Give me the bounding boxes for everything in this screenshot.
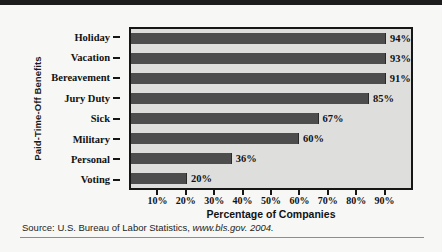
bar-value-label: 94% xyxy=(390,33,411,44)
bar xyxy=(131,73,386,84)
y-axis-title-text: Paid-Time-Off Benefits xyxy=(32,56,43,160)
bar xyxy=(131,93,369,104)
category-label-text: Personal xyxy=(71,154,110,165)
bar-row: 60% xyxy=(131,128,411,148)
bar-series: 94%93%91%85%67%60%36%20% xyxy=(131,29,411,188)
category-label: Personal xyxy=(48,149,123,169)
x-tick-label: 40% xyxy=(233,195,253,206)
category-label-text: Sick xyxy=(91,113,110,124)
bar-row: 67% xyxy=(131,109,411,129)
x-tick-label: 80% xyxy=(346,195,366,206)
bar-row: 91% xyxy=(131,69,411,89)
category-label-text: Jury Duty xyxy=(64,93,110,104)
x-tick-label: 50% xyxy=(261,195,281,206)
x-tick-label: 10% xyxy=(147,195,167,206)
bar-value-label: 60% xyxy=(303,133,324,144)
bar-value-label: 91% xyxy=(390,73,411,84)
category-label-text: Military xyxy=(73,134,110,145)
category-label: Holiday xyxy=(48,27,123,47)
source-note-citation: www.bls.gov. 2004. xyxy=(193,222,274,233)
category-label-text: Holiday xyxy=(74,32,110,43)
x-tick-label: 20% xyxy=(176,195,196,206)
x-tick-label: 70% xyxy=(318,195,338,206)
x-axis-title: Percentage of Companies xyxy=(129,208,413,220)
category-label: Jury Duty xyxy=(48,88,123,108)
plot-area: 94%93%91%85%67%60%36%20% xyxy=(129,27,413,190)
category-label-text: Vacation xyxy=(71,52,110,63)
x-axis-tick-labels: 10%20%30%40%50%60%70%80%90% xyxy=(129,195,413,208)
bar-value-label: 36% xyxy=(236,153,257,164)
source-note: Source: U.S. Bureau of Labor Statistics,… xyxy=(22,222,274,233)
category-label: Bereavement xyxy=(48,68,123,88)
bar-value-label: 67% xyxy=(323,113,344,124)
bar-value-label: 20% xyxy=(191,173,212,184)
category-label: Sick xyxy=(48,109,123,129)
bar-row: 94% xyxy=(131,29,411,49)
category-label: Military xyxy=(48,129,123,149)
bar-chart: Paid-Time-Off Benefits HolidayVacationBe… xyxy=(0,5,442,217)
bar xyxy=(131,53,386,64)
figure-container: Paid-Time-Off Benefits HolidayVacationBe… xyxy=(0,0,442,252)
bar xyxy=(131,133,299,144)
x-tick-label: 60% xyxy=(289,195,309,206)
bar-row: 93% xyxy=(131,49,411,69)
bar xyxy=(131,113,319,124)
bar-value-label: 85% xyxy=(373,93,394,104)
bar xyxy=(131,33,386,44)
source-note-prefix: Source: U.S. Bureau of Labor Statistics, xyxy=(22,222,193,233)
bar-value-label: 93% xyxy=(390,53,411,64)
x-tick-label: 30% xyxy=(204,195,224,206)
category-label-text: Voting xyxy=(81,174,110,185)
x-tick-label: 90% xyxy=(375,195,395,206)
category-label: Vacation xyxy=(48,47,123,67)
y-axis-title: Paid-Time-Off Benefits xyxy=(28,22,46,194)
bar-row: 20% xyxy=(131,168,411,188)
bar-row: 36% xyxy=(131,148,411,168)
category-axis-labels: HolidayVacationBereavementJury DutySickM… xyxy=(48,27,123,190)
footer-divider xyxy=(20,237,424,238)
bar-row: 85% xyxy=(131,89,411,109)
bar xyxy=(131,173,187,184)
category-label: Voting xyxy=(48,170,123,190)
bar xyxy=(131,153,232,164)
category-label-text: Bereavement xyxy=(51,72,110,83)
